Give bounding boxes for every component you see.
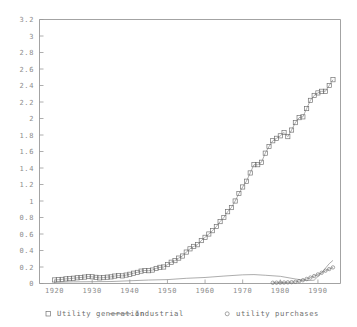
- y-tick-label: 1.4: [20, 165, 34, 173]
- x-tick-label: 1970: [233, 287, 252, 295]
- y-tick-label: 1: [29, 198, 34, 206]
- series-line: [55, 260, 333, 282]
- y-tick-label: 0.6: [20, 231, 34, 239]
- chart-legend: Utility generationIndustrialutility purc…: [46, 309, 319, 318]
- x-tick-label: 1960: [195, 287, 214, 295]
- legend-label: Utility generation: [57, 309, 145, 318]
- x-tick-label: 1990: [308, 287, 327, 295]
- y-tick-label: 1.2: [20, 181, 34, 189]
- y-tick-label: 2: [29, 115, 34, 123]
- series-utility-generation: [52, 78, 335, 282]
- y-tick-label: 0.8: [20, 214, 34, 222]
- y-tick-label: 0: [29, 280, 34, 288]
- legend-label: utility purchases: [236, 309, 319, 318]
- y-tick-label: 2.2: [20, 99, 34, 107]
- legend-circle-icon: [225, 312, 229, 316]
- y-tick-label: 1.6: [20, 148, 34, 156]
- x-tick-label: 1980: [271, 287, 290, 295]
- x-tick-label: 1950: [158, 287, 177, 295]
- y-tick-label: 2.8: [20, 49, 34, 57]
- x-tick-label: 1930: [83, 287, 102, 295]
- legend-item-utility-purchases[interactable]: utility purchases: [225, 309, 319, 318]
- legend-square-icon: [46, 312, 50, 316]
- chart-figure: 00.20.40.60.811.21.41.61.822.22.42.62.83…: [0, 0, 357, 327]
- y-tick-label: 2.6: [20, 66, 34, 74]
- y-tick-label: 0.2: [20, 264, 34, 272]
- legend-label: Industrial: [135, 309, 184, 318]
- series-layer: [52, 78, 335, 285]
- y-tick-label: 0.4: [20, 247, 34, 255]
- y-tick-label: 3.2: [20, 16, 34, 24]
- chart-canvas: 00.20.40.60.811.21.41.61.822.22.42.62.83…: [0, 0, 357, 327]
- series-industrial: [55, 260, 333, 282]
- y-tick-label: 3: [29, 33, 34, 41]
- series-line: [55, 80, 333, 280]
- y-tick-label: 1.8: [20, 132, 34, 140]
- x-tick-label: 1920: [45, 287, 64, 295]
- plot-border: [40, 20, 341, 284]
- y-tick-label: 2.4: [20, 82, 34, 90]
- x-tick-label: 1940: [120, 287, 139, 295]
- plot-frame: [40, 20, 341, 284]
